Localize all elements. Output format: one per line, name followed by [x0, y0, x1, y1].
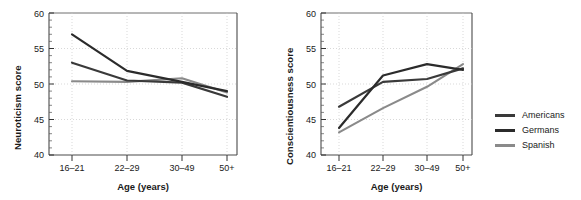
- x-tick-label: 50+: [455, 163, 470, 173]
- legend-item-spanish: Spanish: [495, 138, 581, 153]
- legend-swatch-line-icon: [495, 129, 515, 131]
- series-line-germans-left: [72, 34, 227, 91]
- legend-label: Americans: [522, 111, 565, 120]
- x-tick-label: 30–49: [414, 163, 439, 173]
- x-axis-label-right: Age (years): [321, 181, 472, 192]
- legend: Americans Germans Spanish: [495, 108, 581, 153]
- x-tick-label: 22–29: [370, 163, 395, 173]
- x-axis-label-left: Age (years): [49, 181, 237, 192]
- plot-area-left: [0, 0, 290, 200]
- x-tick-label: 50+: [219, 163, 234, 173]
- legend-swatch-line-icon: [495, 114, 515, 116]
- chart-panel-neuroticism: Neuroticism score 60 55 50 45 40: [0, 0, 290, 200]
- legend-item-germans: Germans: [495, 123, 581, 138]
- legend-swatch-line-icon: [495, 144, 515, 146]
- x-tick-label: 16–21: [326, 163, 351, 173]
- series-line-americans-right: [339, 68, 463, 106]
- legend-label: Germans: [522, 126, 559, 135]
- x-tick-label: 16–21: [59, 163, 84, 173]
- x-tick-label: 22–29: [114, 163, 139, 173]
- legend-item-americans: Americans: [495, 108, 581, 123]
- x-tick-label: 30–49: [169, 163, 194, 173]
- figure: Neuroticism score 60 55 50 45 40: [0, 0, 581, 200]
- chart-panel-conscientiousness: Conscientiousness score 60 55 50 45 40: [280, 0, 510, 200]
- legend-label: Spanish: [522, 141, 555, 150]
